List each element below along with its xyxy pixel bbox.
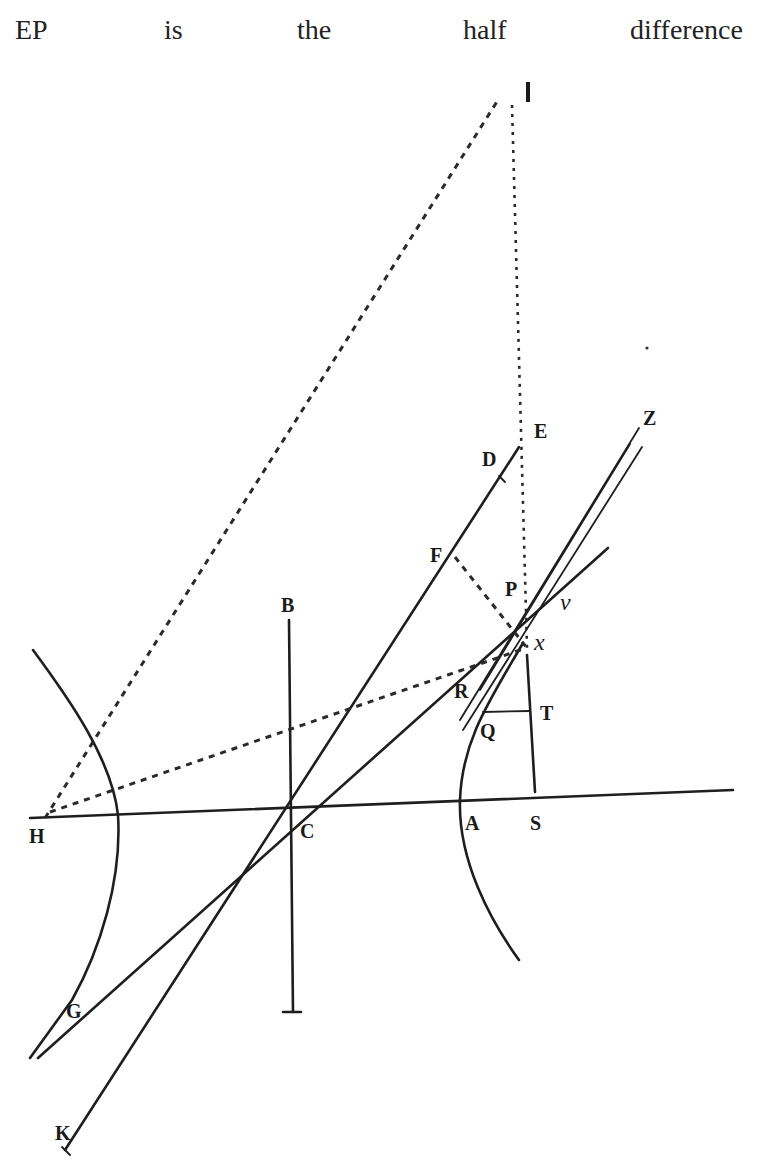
ordinate-ps	[527, 655, 535, 792]
label-a: A	[465, 812, 480, 834]
label-t: T	[540, 702, 554, 724]
conjugate-axis	[289, 620, 293, 1012]
label-q: Q	[480, 720, 496, 742]
dotted-line-ie	[512, 105, 527, 648]
label-k: K	[55, 1122, 71, 1144]
label-d: D	[482, 448, 496, 470]
label-h: H	[29, 825, 45, 847]
tick-d	[499, 476, 505, 482]
label-g: G	[66, 1000, 82, 1022]
asymptote-dck	[65, 447, 519, 1150]
dashed-line-hp	[50, 648, 526, 812]
geometry-figure: E D Z F P v x B R T Q H C A S G K	[0, 0, 760, 1162]
label-v: v	[560, 589, 571, 615]
speck	[645, 346, 648, 349]
label-s: S	[530, 812, 541, 834]
label-z: Z	[643, 407, 656, 429]
label-e: E	[534, 420, 547, 442]
tangent-line-z2	[463, 447, 642, 730]
label-x: x	[533, 629, 545, 655]
label-p: P	[505, 578, 517, 600]
dashed-line-fp	[455, 557, 527, 648]
point-i-mark	[526, 82, 530, 102]
label-f: F	[430, 544, 442, 566]
label-c: C	[300, 820, 314, 842]
tangent-line-z3	[480, 444, 630, 690]
label-b: B	[281, 594, 294, 616]
transverse-axis	[30, 790, 733, 818]
label-r: R	[454, 680, 469, 702]
diameter-gcp	[38, 548, 608, 1058]
segment-qt	[483, 711, 530, 712]
dashed-line-hi	[45, 100, 498, 818]
